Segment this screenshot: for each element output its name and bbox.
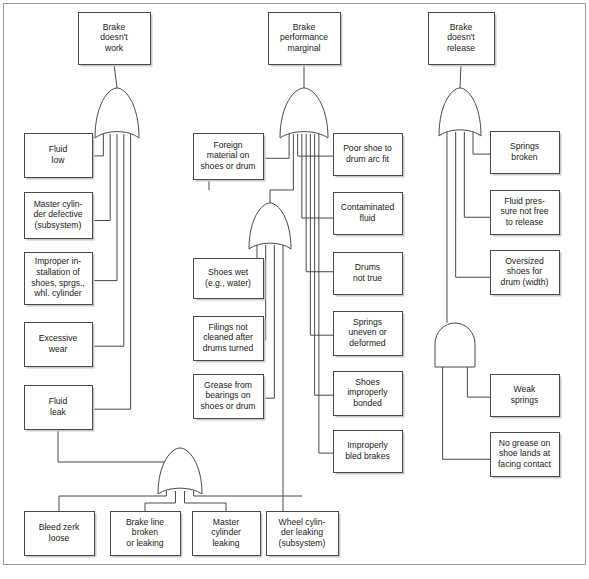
event-box-master-cyl-leaking[interactable]: Mastercylinderleaking: [193, 512, 263, 558]
gate-or-or-mid-top[interactable]: [280, 88, 328, 138]
input-left-1: [92, 134, 110, 221]
box-label-line: material on: [207, 150, 250, 160]
input-mid-right-5: [319, 134, 333, 453]
box-label-line: release: [447, 43, 475, 53]
event-box-poor-shoe-arc[interactable]: Poor shoe todrum arc fit: [334, 134, 405, 178]
box-label-line: leaking: [212, 538, 239, 548]
gate-or-or-right-top[interactable]: [439, 88, 481, 136]
event-box-springs-uneven[interactable]: Springsuneven ordeformed: [334, 312, 405, 358]
event-box-top-right[interactable]: Brakedoesn'trelease: [429, 13, 497, 67]
box-label-line: shoe lands at: [499, 448, 551, 458]
event-box-filings-not-cleaned[interactable]: Filings notcleaned afterdrums turned: [194, 317, 266, 363]
box-label-line: Springs: [353, 317, 382, 327]
box-label-line: springs: [511, 395, 539, 405]
box-label-line: not true: [353, 273, 382, 283]
box-label-line: der defective: [33, 209, 82, 219]
box-label-line: (subsystem): [35, 220, 82, 230]
event-box-fluid-leak[interactable]: Fluidleak: [25, 386, 95, 432]
gate-shape: [95, 88, 139, 138]
gate-or-or-bottom[interactable]: [158, 448, 202, 494]
event-box-master-cyl-defective[interactable]: Master cylin-der defective(subsystem): [25, 193, 95, 241]
event-box-shoes-wet[interactable]: Shoes wet(e.g., water): [194, 259, 266, 301]
input-and-weak-springs: [467, 367, 490, 397]
input-right-3: [473, 132, 490, 154]
box-label-line: drum (width): [501, 277, 549, 287]
input-mid-right-3: [310, 134, 333, 335]
box-label-line: No grease on: [499, 438, 551, 448]
event-box-drums-not-true[interactable]: Drumsnot true: [334, 253, 405, 297]
input-left-3: [92, 134, 124, 346]
gate-and-and-right[interactable]: [435, 323, 475, 367]
stem-top-left: [114, 64, 117, 88]
box-label-line: Drums: [355, 262, 380, 272]
box-label-line: Grease from: [204, 380, 252, 390]
box-label-line: (e.g., water): [205, 278, 251, 288]
fault-tree-canvas: Brakedoesn'tworkBrakeperformancemarginal…: [0, 0, 589, 579]
box-label-line: work: [104, 43, 124, 53]
box-label-line: Brake line: [126, 517, 164, 527]
gate-or-or-left-top[interactable]: [95, 88, 139, 138]
event-box-improper-install[interactable]: Improper in-stallation ofshoes, sprgs.,w…: [25, 253, 95, 307]
event-box-grease-bearings[interactable]: Grease frombearings onshoes or drum: [194, 375, 266, 421]
box-label-line: Master cylin-: [34, 199, 83, 209]
event-box-bleed-zerk[interactable]: Bleed zerkloose: [25, 512, 97, 558]
box-label-line: Fluid pres-: [504, 196, 545, 206]
event-box-no-grease[interactable]: No grease onshoe lands atfacing contact: [491, 433, 562, 479]
box-label-line: Oversized: [505, 256, 544, 266]
event-box-foreign-material[interactable]: Foreignmaterial onshoes or drum: [194, 134, 266, 182]
input-right-2: [464, 132, 490, 217]
box-label-line: Springs: [510, 141, 539, 151]
box-label-line: broken: [511, 152, 537, 162]
box-label-line: bonded: [353, 398, 382, 408]
box-label-line: Contaminated: [341, 202, 395, 212]
box-label-line: drums turned: [203, 343, 254, 353]
box-label-line: Improper in-: [35, 256, 81, 266]
event-box-top-left[interactable]: Brakedoesn'twork: [79, 13, 153, 67]
box-label-line: Bleed zerk: [39, 522, 80, 532]
gate-or-or-mid-sub[interactable]: [249, 203, 291, 249]
box-label-line: broken: [132, 527, 158, 537]
stem-top-right: [460, 64, 461, 88]
fault-tree-diagram: Brakedoesn'tworkBrakeperformancemarginal…: [0, 0, 589, 579]
fluid-leak-to-or-bottom: [58, 429, 182, 462]
box-label-line: cleaned after: [203, 332, 253, 342]
event-box-excessive-wear[interactable]: Excessivewear: [25, 323, 95, 369]
box-label-line: loose: [49, 533, 70, 543]
box-label-line: Brake: [103, 22, 126, 32]
event-box-contaminated-fluid[interactable]: Contaminatedfluid: [334, 193, 405, 237]
box-label-line: drum arc fit: [346, 154, 390, 164]
event-box-top-mid[interactable]: Brakeperformancemarginal: [269, 13, 343, 67]
event-box-oversized-shoes[interactable]: Oversizedshoes fordrum (width): [491, 251, 562, 297]
box-label-line: (subsystem): [279, 538, 326, 548]
gates-layer: [95, 88, 481, 494]
box-label-line: stallation of: [36, 267, 80, 277]
event-box-improperly-bled[interactable]: Improperlybled brakes: [334, 431, 405, 475]
box-label-line: shoes, sprgs.,: [31, 278, 85, 288]
box-label-line: improperly: [347, 387, 388, 397]
box-label-line: marginal: [288, 43, 321, 53]
box-label-line: Brake: [450, 22, 473, 32]
event-box-springs-broken[interactable]: Springsbroken: [491, 132, 562, 176]
box-label-line: Master: [213, 517, 239, 527]
event-box-fluid-pressure[interactable]: Fluid pres-sure not freeto release: [491, 191, 562, 237]
event-box-wheel-cyl-leaking[interactable]: Wheel cylin-der leaking(subsystem): [267, 512, 341, 558]
event-box-fluid-low[interactable]: Fluidlow: [25, 134, 95, 180]
box-label-line: bled brakes: [345, 451, 389, 461]
input-bottom-bleed-zerk: [59, 491, 166, 511]
event-box-shoes-improperly-bonded[interactable]: Shoesimproperlybonded: [334, 372, 405, 418]
box-label-line: doesn't: [100, 32, 128, 42]
event-box-brake-line[interactable]: Brake linebrokenor leaking: [111, 512, 183, 558]
event-box-weak-springs[interactable]: Weaksprings: [491, 375, 562, 419]
box-label-line: Improperly: [347, 440, 388, 450]
input-and-no-grease: [443, 367, 490, 459]
gate-shape: [439, 88, 481, 136]
box-label-line: cylinder: [211, 527, 241, 537]
box-label-line: leak: [50, 407, 66, 417]
input-bottom-wheel-cyl: [194, 491, 302, 496]
box-label-line: doesn't: [447, 32, 475, 42]
input-mid-right-4: [315, 134, 333, 395]
gate-shape: [158, 448, 202, 494]
box-label-line: Brake: [293, 22, 316, 32]
box-label-line: Foreign: [213, 140, 242, 150]
box-label-line: facing contact: [498, 459, 552, 469]
